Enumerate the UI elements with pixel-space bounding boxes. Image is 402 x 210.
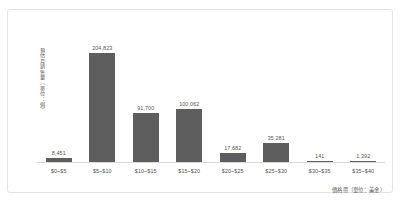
bar-rect[interactable] <box>176 109 202 162</box>
bar-rect[interactable] <box>263 143 289 162</box>
bar-group[interactable]: 91,700 <box>124 44 168 162</box>
bar-rect[interactable] <box>89 53 115 162</box>
x-axis-baseline <box>37 162 385 163</box>
bar-series: 8,451 204,823 91,700 100,062 17,682 35,2… <box>37 44 385 162</box>
x-axis-tick-label: $35~$40 <box>342 168 386 174</box>
bar-value-label: 1,392 <box>356 153 370 159</box>
x-axis-tick-label: $0~$5 <box>37 168 81 174</box>
bar-value-label: 204,823 <box>92 45 112 51</box>
x-axis-tick-labels: $0~$5 $5~$10 $10~$15 $15~$20 $20~$25 $25… <box>37 168 385 174</box>
bar-group[interactable]: 1,392 <box>342 44 386 162</box>
x-axis-tick-label: $10~$15 <box>124 168 168 174</box>
bar-value-label: 8,451 <box>52 150 66 156</box>
x-axis-title: 價格帶（單位：美金） <box>263 186 385 194</box>
bar-value-label: 141 <box>315 153 324 159</box>
chart-frame: 預估月銷售量（單位：個） 8,451 204,823 91,700 100,06… <box>7 9 393 193</box>
bar-value-label: 17,682 <box>224 145 241 151</box>
bar-group[interactable]: 100,062 <box>168 44 212 162</box>
bar-group[interactable]: 17,682 <box>211 44 255 162</box>
x-axis-tick-label: $5~$10 <box>81 168 125 174</box>
bar-value-label: 35,281 <box>268 135 285 141</box>
x-axis-tick-label: $15~$20 <box>168 168 212 174</box>
x-axis-tick-label: $20~$25 <box>211 168 255 174</box>
x-axis-tick-label: $25~$30 <box>255 168 299 174</box>
bar-group[interactable]: 35,281 <box>255 44 299 162</box>
bar-group[interactable]: 141 <box>298 44 342 162</box>
bar-value-label: 100,062 <box>179 101 199 107</box>
bar-rect[interactable] <box>133 113 159 162</box>
bar-group[interactable]: 204,823 <box>81 44 125 162</box>
x-axis-tick-label: $30~$35 <box>298 168 342 174</box>
bar-group[interactable]: 8,451 <box>37 44 81 162</box>
bar-rect[interactable] <box>220 153 246 162</box>
bar-value-label: 91,700 <box>137 105 154 111</box>
